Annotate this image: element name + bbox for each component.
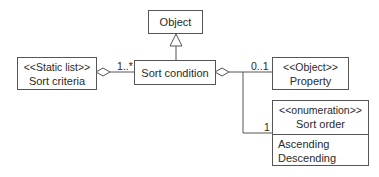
class-stereotype: <<Static list>> (18, 60, 96, 74)
multiplicity-criteria-condition: 1..* (117, 60, 133, 72)
class-name: Sort order (273, 117, 368, 131)
class-property: <<Object>> Property (272, 57, 349, 90)
multiplicity-condition-property: 0..1 (251, 60, 269, 72)
aggregation-diamond-icon-criteria (96, 68, 110, 76)
class-sort-condition: Sort condition (134, 60, 216, 85)
class-name: Property (273, 74, 348, 88)
enum-literals: Ascending Descending (273, 134, 368, 165)
class-sort-criteria: <<Static list>> Sort criteria (17, 57, 97, 90)
multiplicity-condition-order: 1 (264, 121, 270, 133)
class-name: Object (149, 15, 202, 29)
class-name: Sort condition (135, 66, 215, 80)
class-object: Object (148, 10, 203, 34)
class-name: Sort criteria (18, 74, 96, 88)
generalization-triangle-icon (170, 34, 182, 46)
class-sort-order: <<onumeration>> Sort order Ascending Des… (272, 100, 369, 166)
enum-literal-ascending: Ascending (278, 137, 368, 151)
aggregation-diamond-icon-condition (215, 68, 229, 76)
class-header: <<onumeration>> Sort order (273, 101, 368, 134)
enum-literal-descending: Descending (278, 151, 368, 165)
class-stereotype: <<Object>> (273, 60, 348, 74)
class-stereotype: <<onumeration>> (273, 103, 368, 117)
